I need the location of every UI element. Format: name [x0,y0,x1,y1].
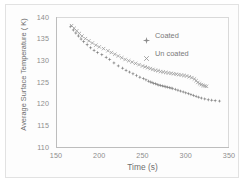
scatter-chart: 110115120125130135140 150200250300350 Co… [5,4,239,178]
x-marker-icon [142,49,151,58]
chart-legend: Coated Un coated [142,26,212,62]
x-tick-label: 350 [216,151,242,161]
x-tick-label: 150 [43,151,69,161]
x-tick-label: 300 [173,151,199,161]
figure-container: 110115120125130135140 150200250300350 Co… [0,0,244,186]
legend-label-uncoated: Un coated [155,49,189,58]
legend-entry-coated: Coated [142,26,212,44]
y-axis-line [56,17,57,148]
y-tick-label: 125 [29,78,53,87]
y-tick-value: 130 [27,56,49,65]
y-tick-label: 135 [29,34,53,43]
x-tick-value: 150 [43,151,69,160]
legend-label-coated: Coated [155,31,179,40]
y-tick-label: 115 [29,121,53,130]
x-tick-value: 250 [130,151,156,160]
y-tick-label: 130 [29,56,53,65]
legend-entry-uncoated: Un coated [142,44,212,62]
x-tick-label: 250 [130,151,156,161]
x-tick-value: 300 [173,151,199,160]
y-axis-title: Average Surface Temperature ( K) [19,10,28,140]
y-tick-value: 135 [27,34,49,43]
x-axis-title: Time (s) [56,162,229,172]
x-tick-label: 200 [86,151,112,161]
y-tick-value: 125 [27,78,49,87]
y-tick-value: 120 [27,99,49,108]
y-tick-value: 115 [27,121,49,130]
y-tick-label: 140 [29,13,53,22]
x-axis-line [56,147,229,148]
y-tick-label: 120 [29,99,53,108]
y-tick-value: 140 [27,13,49,22]
diamond-marker-icon [142,31,151,40]
x-tick-value: 200 [86,151,112,160]
x-tick-value: 350 [216,151,242,160]
